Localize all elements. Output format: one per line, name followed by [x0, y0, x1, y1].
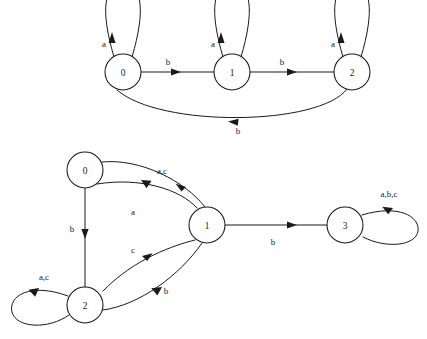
transition-b0-b1: a,c	[102, 162, 205, 207]
edge-label-t1-self: a	[211, 39, 215, 49]
state-label-b0: 0	[83, 166, 88, 176]
arrow-head-t1-self	[218, 32, 225, 43]
arrow-head-b1-b3	[287, 221, 297, 228]
edge-path-t2-t0	[117, 89, 347, 118]
state-label-t0: 0	[121, 68, 126, 78]
transition-b0-b2: b	[70, 188, 89, 287]
edge-path-b2-self	[12, 290, 69, 325]
arrow-head-b0-b2	[81, 229, 88, 239]
edge-label-t0-self: a	[102, 39, 106, 49]
state-label-b3: 3	[343, 221, 348, 231]
edge-label-t2-t0: b	[236, 126, 241, 136]
transition-t0-t1: b	[141, 57, 214, 76]
edge-label-b1-b2: c	[131, 245, 135, 255]
state-node-t1[interactable]: 1	[214, 54, 250, 90]
state-node-t0[interactable]: 0	[105, 54, 141, 90]
automata-diagram-figure: a a a b	[0, 0, 427, 339]
arrow-head-t2-self	[338, 32, 345, 43]
state-node-b1[interactable]: 1	[189, 207, 225, 243]
edge-path-t0-self	[106, 0, 141, 57]
arrow-head-t2-t0	[228, 119, 239, 126]
edge-label-t1-t2: b	[280, 57, 285, 67]
edge-path-t2-self	[335, 0, 370, 57]
state-label-b2: 2	[83, 301, 88, 311]
transition-b1-b2: c	[103, 240, 195, 291]
figure-canvas: a a a b	[0, 0, 427, 339]
transition-t1-self: a	[211, 0, 249, 57]
state-node-b2[interactable]: 2	[67, 287, 103, 323]
arrow-head-b1-b0	[141, 180, 152, 188]
transition-t0-self: a	[102, 0, 140, 57]
transition-t1-t2: b	[250, 57, 334, 76]
transition-b2-self: a,c	[12, 272, 69, 325]
state-node-t2[interactable]: 2	[334, 54, 370, 90]
transition-b3-self: a,b,c	[362, 189, 418, 244]
arrow-head-t0-self	[109, 32, 116, 43]
top-automaton: a a a b	[102, 0, 370, 136]
transition-t2-self: a	[331, 0, 369, 57]
state-label-t1: 1	[230, 68, 235, 78]
state-node-b3[interactable]: 3	[327, 207, 363, 243]
edge-label-b3-self: a,b,c	[381, 189, 398, 199]
arrow-head-b2-self	[29, 288, 40, 297]
state-node-b0[interactable]: 0	[67, 152, 103, 188]
state-label-t2: 2	[350, 68, 355, 78]
transition-t2-t0: b	[117, 89, 347, 136]
edge-label-b0-b1: a,c	[157, 166, 167, 176]
transition-b2-b1: b	[103, 243, 202, 310]
edge-path-t1-self	[215, 0, 250, 57]
state-label-b1: 1	[205, 221, 210, 231]
edge-path-b2-b1	[103, 243, 202, 310]
bottom-automaton: a,c a b c	[12, 152, 419, 325]
edge-label-t2-self: a	[331, 39, 335, 49]
edge-path-b0-b1	[102, 162, 205, 207]
arrow-head-b2-b1	[151, 287, 162, 296]
edge-path-b1-b2	[103, 240, 195, 291]
transition-b1-b3: b	[225, 221, 327, 247]
edge-label-t0-t1: b	[166, 57, 171, 67]
edge-label-b1-b3: b	[271, 237, 276, 247]
arrow-head-t1-t2	[287, 68, 297, 75]
edge-path-b3-self	[362, 211, 418, 245]
edge-label-b2-self: a,c	[39, 272, 49, 282]
edge-label-b2-b1: b	[164, 286, 169, 296]
arrow-head-t0-t1	[171, 68, 181, 75]
edge-label-b1-b0: a	[131, 207, 135, 217]
edge-label-b0-b2: b	[70, 224, 75, 234]
